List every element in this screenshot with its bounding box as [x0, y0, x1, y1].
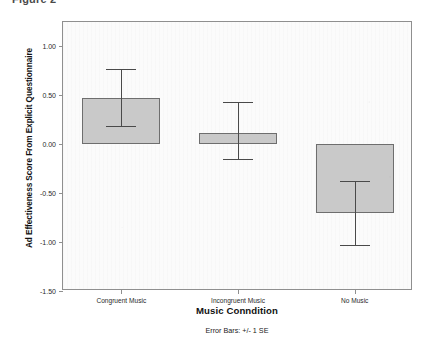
y-axis-title: Ad Effectiveness Score From Explicit Que…	[24, 28, 34, 268]
error-bar-cap-upper-1	[223, 102, 253, 103]
y-tick-2	[59, 144, 63, 145]
y-tick-label-4: -1.00	[40, 239, 56, 246]
error-bar-stem-1	[238, 102, 239, 159]
error-bar-cap-lower-2	[340, 245, 370, 246]
error-bar-cap-upper-2	[340, 181, 370, 182]
y-tick-5	[59, 291, 63, 292]
y-tick-0	[59, 46, 63, 47]
x-axis-title: Music Conndition	[62, 305, 412, 316]
x-tick-0	[121, 289, 122, 294]
error-bar-cap-upper-0	[106, 69, 136, 70]
y-tick-3	[59, 193, 63, 194]
error-bar-note: Error Bars: +/- 1 SE	[62, 326, 412, 335]
y-tick-label-3: -0.50	[40, 190, 56, 197]
bar-chart-figure: Ad Effectiveness Score From Explicit Que…	[0, 0, 433, 343]
error-bar-stem-0	[121, 69, 122, 126]
x-tick-1	[238, 289, 239, 294]
error-bar-cap-lower-1	[223, 159, 253, 160]
y-tick-label-0: 1.00	[42, 43, 56, 50]
y-tick-label-5: -1.50	[40, 288, 56, 295]
x-tick-label-0: Congruent Music	[96, 297, 146, 304]
y-tick-label-1: 0.50	[42, 92, 56, 99]
y-tick-4	[59, 242, 63, 243]
error-bar-cap-lower-0	[106, 126, 136, 127]
error-bar-stem-2	[355, 181, 356, 245]
plot-area: 1.000.500.00-0.50-1.00-1.50 Congruent Mu…	[62, 21, 412, 290]
x-tick-label-1: Incongruent Music	[211, 297, 265, 304]
x-tick-2	[355, 289, 356, 294]
x-tick-label-2: No Music	[341, 297, 368, 304]
y-tick-1	[59, 95, 63, 96]
y-tick-label-2: 0.00	[42, 141, 56, 148]
